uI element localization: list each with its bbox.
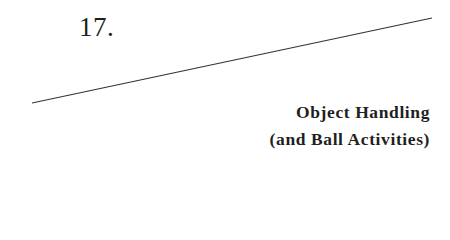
chapter-title-line-1: Object Handling — [270, 99, 430, 126]
chapter-title: Object Handling (and Ball Activities) — [270, 99, 430, 153]
chapter-title-line-2: (and Ball Activities) — [270, 126, 430, 153]
